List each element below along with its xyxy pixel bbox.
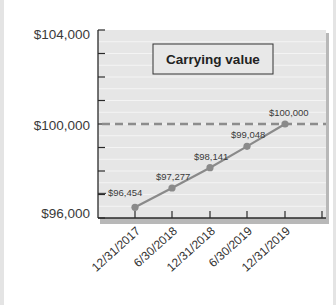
line-chart: Carrying value $96,454$97,277$98,141$99,…: [0, 0, 336, 305]
x-axis-label: 12/31/2017: [89, 224, 143, 275]
data-label: $99,048: [231, 129, 265, 140]
data-point: [206, 164, 213, 171]
data-label: $97,277: [156, 171, 190, 182]
x-axis-labels: 12/31/20176/30/201812/31/20186/30/201912…: [89, 224, 293, 275]
data-point: [281, 120, 288, 127]
chart-title: Carrying value: [166, 52, 260, 67]
data-point: [131, 204, 138, 211]
data-label: $98,141: [194, 151, 228, 162]
data-point: [168, 184, 175, 191]
data-label: $96,454: [108, 187, 142, 198]
data-label: $100,000: [269, 107, 309, 118]
data-point: [243, 143, 250, 150]
